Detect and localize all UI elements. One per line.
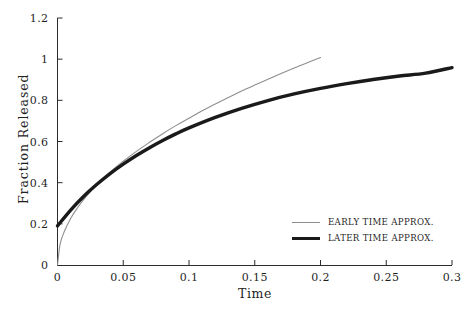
legend-swatch-later-icon — [292, 237, 320, 240]
series-line-later-time-approx — [58, 68, 453, 226]
legend-item-early[interactable]: EARLY TIME APPROX. — [292, 214, 434, 230]
x-axis-title: Time — [238, 286, 272, 301]
x-tick-label: 0.1 — [180, 271, 199, 284]
y-axis-ticks — [58, 18, 63, 224]
x-axis-ticks — [58, 260, 453, 265]
legend-swatch-early-icon — [292, 222, 320, 223]
x-tick-label: 0 — [54, 271, 61, 284]
y-axis-title: Fraction Released — [16, 74, 31, 204]
chart-figure: 00.050.10.150.20.250.3 00.20.40.60.811.2… — [0, 0, 465, 310]
x-tick-label: 0.15 — [242, 271, 268, 284]
legend-label-early: EARLY TIME APPROX. — [328, 217, 434, 227]
y-tick-label: 1.2 — [0, 12, 49, 25]
x-tick-label: 0.05 — [110, 271, 136, 284]
y-tick-label: 0.2 — [0, 217, 49, 230]
x-tick-label: 0.2 — [311, 271, 330, 284]
y-tick-label: 0 — [0, 259, 49, 272]
x-tick-label: 0.3 — [443, 271, 462, 284]
y-tick-label: 1 — [0, 53, 49, 66]
legend-item-later[interactable]: LATER TIME APPROX. — [292, 230, 434, 246]
series-line-early-time-approx — [58, 58, 321, 265]
chart-legend: EARLY TIME APPROX. LATER TIME APPROX. — [292, 214, 434, 246]
x-tick-label: 0.25 — [373, 271, 399, 284]
plot-area — [0, 0, 465, 310]
legend-label-later: LATER TIME APPROX. — [328, 233, 434, 243]
